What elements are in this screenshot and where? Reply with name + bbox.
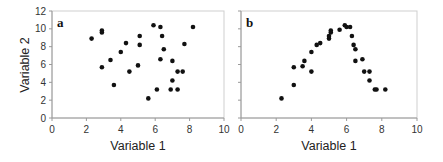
data-point: [89, 36, 94, 41]
panel-b-points: [279, 23, 387, 101]
data-point: [292, 65, 297, 70]
y-tick-label: 2: [40, 95, 46, 106]
data-point: [353, 47, 358, 52]
panel-a-letter: a: [57, 15, 64, 30]
data-point: [168, 87, 173, 92]
data-point: [383, 87, 388, 92]
panel-b-frame: [241, 11, 417, 118]
panel-a-axes: 0246810024681012: [35, 6, 230, 136]
y-tick-label: 12: [35, 6, 47, 17]
x-tick-label: 10: [218, 124, 230, 135]
data-point: [191, 25, 196, 30]
data-point: [100, 65, 105, 70]
x-tick-label: 0: [49, 124, 55, 135]
data-point: [170, 78, 175, 83]
x-tick-label: 4: [309, 124, 315, 135]
panel-a: 0246810024681012 a Variable 1 Variable 2: [18, 6, 230, 154]
y-tick-label: 8: [40, 41, 46, 52]
y-tick-label: 0: [40, 113, 46, 124]
data-point: [160, 34, 165, 39]
x-tick-label: 8: [187, 124, 193, 135]
data-point: [162, 47, 167, 52]
data-point: [170, 59, 175, 64]
data-point: [309, 50, 314, 55]
y-tick-label: 4: [40, 77, 46, 88]
data-point: [302, 59, 307, 64]
panel-a-points: [89, 23, 195, 101]
scatter-figure: 0246810024681012 a Variable 1 Variable 2…: [0, 0, 443, 162]
data-point: [329, 28, 334, 33]
data-point: [127, 69, 132, 74]
data-point: [158, 25, 163, 30]
panel-b-xlabel: Variable 1: [301, 139, 356, 153]
x-tick-label: 2: [273, 124, 279, 135]
data-point: [309, 69, 314, 74]
y-tick-label: 10: [35, 23, 47, 34]
data-point: [136, 63, 141, 68]
data-point: [108, 58, 113, 63]
data-point: [367, 78, 372, 83]
data-point: [367, 69, 372, 74]
data-point: [374, 87, 379, 92]
data-point: [175, 69, 180, 74]
data-point: [300, 64, 305, 69]
panel-b: 0246810 b Variable 1: [238, 11, 423, 153]
data-point: [137, 34, 142, 39]
x-tick-label: 0: [238, 124, 244, 135]
data-point: [348, 25, 353, 30]
data-point: [112, 83, 117, 88]
data-point: [119, 50, 124, 55]
y-tick-label: 6: [40, 59, 46, 70]
data-point: [351, 43, 356, 48]
data-point: [146, 96, 151, 101]
data-point: [362, 69, 367, 74]
data-point: [353, 59, 358, 64]
data-point: [151, 23, 156, 28]
data-point: [137, 43, 142, 48]
data-point: [158, 57, 163, 62]
data-point: [350, 34, 355, 39]
x-tick-label: 2: [84, 124, 90, 135]
data-point: [180, 69, 185, 74]
data-point: [279, 96, 284, 101]
data-point: [360, 57, 365, 62]
data-point: [175, 87, 180, 92]
data-point: [124, 41, 129, 46]
x-tick-label: 6: [152, 124, 158, 135]
x-tick-label: 8: [379, 124, 385, 135]
x-tick-label: 6: [344, 124, 350, 135]
data-point: [182, 42, 187, 47]
data-point: [100, 30, 105, 35]
panel-b-letter: b: [246, 15, 253, 30]
data-point: [337, 27, 342, 32]
data-point: [155, 87, 160, 92]
panel-a-ylabel: Variable 2: [18, 37, 32, 92]
x-tick-label: 4: [118, 124, 124, 135]
data-point: [292, 83, 297, 88]
data-point: [318, 41, 323, 46]
x-tick-label: 10: [411, 124, 423, 135]
panel-a-xlabel: Variable 1: [110, 139, 165, 153]
